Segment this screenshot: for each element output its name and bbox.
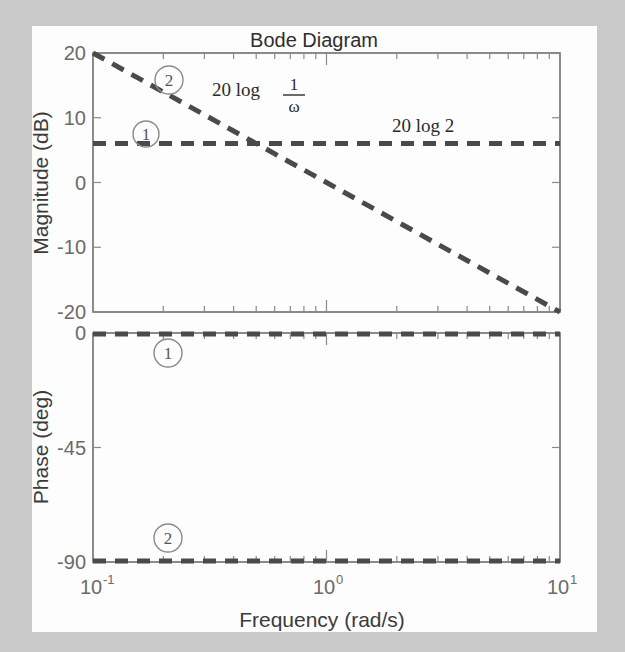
magnitude-axis-label: Magnitude (dB) [32, 111, 52, 255]
phase-callout-2: 2 [154, 524, 182, 552]
phase-ytick-label: 0 [75, 322, 86, 344]
xtick-mantissa: 10 [547, 576, 569, 598]
x-axis: 10 -1 10 0 10 1 Frequency (rad/s) [80, 572, 577, 631]
xtick-label-group: 10 0 [313, 572, 343, 598]
phase-panel: 0 -45 -90 Phase (deg) [32, 322, 560, 573]
formula-slope-prefix: 20 log [212, 79, 261, 100]
phase-ytick-label: -90 [57, 551, 86, 573]
x-axis-label: Frequency (rad/s) [239, 608, 405, 631]
formula-slope-numerator: 1 [290, 75, 299, 94]
phase-callout-1: 1 [154, 339, 182, 367]
magnitude-callout-2-label: 2 [165, 71, 174, 90]
figure-title: Bode Diagram [250, 29, 378, 51]
magnitude-curve-2 [93, 53, 560, 312]
phase-callout-1-label: 1 [164, 344, 173, 363]
magnitude-ytick-label: -20 [57, 301, 86, 323]
magnitude-panel: 20 10 0 -10 -20 Magnitude (dB) [32, 42, 560, 323]
magnitude-ytick-label: 20 [64, 42, 86, 64]
xtick-mantissa: 10 [313, 576, 335, 598]
phase-axis-label: Phase (deg) [32, 390, 52, 504]
magnitude-callout-1-label: 1 [142, 125, 151, 144]
figure-card: Bode Diagram [32, 26, 597, 632]
magnitude-callout-2: 2 [155, 66, 183, 94]
phase-y-ticks [93, 333, 560, 562]
formula-flat: 20 log 2 [392, 115, 454, 136]
xtick-label-group: 10 -1 [80, 572, 115, 598]
magnitude-ytick-label: 0 [75, 172, 86, 194]
magnitude-formula-slope: 20 log 1 ω [212, 75, 305, 116]
phase-callout-2-label: 2 [164, 529, 173, 548]
phase-axes-frame [93, 333, 560, 562]
xtick-label-group: 10 1 [547, 572, 577, 598]
magnitude-callout-1: 1 [133, 121, 159, 147]
page-background: Bode Diagram [0, 0, 625, 652]
formula-slope-denominator: ω [288, 97, 299, 116]
magnitude-ytick-label: -10 [57, 236, 86, 258]
phase-x-minor-ticks [163, 333, 549, 562]
xtick-exponent: -1 [103, 572, 115, 587]
phase-ytick-label: -45 [57, 437, 86, 459]
bode-diagram-figure: Bode Diagram [32, 26, 597, 632]
xtick-exponent: 1 [570, 572, 577, 587]
magnitude-ytick-label: 10 [64, 107, 86, 129]
xtick-mantissa: 10 [80, 576, 102, 598]
xtick-exponent: 0 [336, 572, 343, 587]
